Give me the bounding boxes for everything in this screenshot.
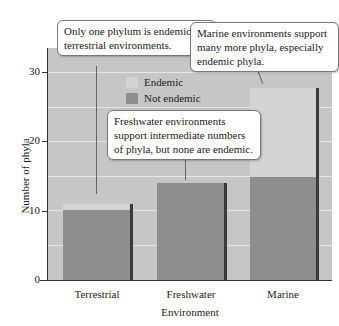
- legend: Endemic Not endemic: [126, 74, 201, 106]
- x-axis-title: Environment: [140, 306, 240, 318]
- bar-freshwater-not-endemic: [157, 183, 224, 280]
- bar-shadow: [130, 204, 133, 280]
- x-tick-label-marine: Marine: [238, 288, 328, 300]
- callout-marine: Marine environments support many more ph…: [190, 22, 339, 72]
- callout-freshwater: Freshwater environments support intermed…: [107, 110, 261, 160]
- legend-item-not-endemic: Not endemic: [126, 90, 201, 106]
- y-axis: [47, 48, 48, 281]
- bar-marine-not-endemic: [250, 177, 316, 280]
- callout-leader-terrestrial: [96, 66, 97, 194]
- bar-freshwater: [157, 183, 224, 280]
- gridline: [48, 72, 332, 73]
- legend-swatch-endemic: [126, 77, 138, 88]
- bar-terrestrial-not-endemic: [63, 210, 130, 280]
- legend-swatch-not-endemic: [126, 93, 138, 104]
- x-tick-label-terrestrial: Terrestrial: [52, 288, 142, 300]
- y-tick: [42, 280, 47, 281]
- bar-terrestrial: [63, 204, 130, 280]
- y-tick: [42, 211, 47, 212]
- legend-item-endemic: Endemic: [126, 74, 201, 90]
- x-tick-label-freshwater: Freshwater: [146, 288, 236, 300]
- legend-label: Not endemic: [144, 92, 201, 104]
- bar-shadow: [224, 183, 227, 280]
- y-tick-label: 30: [12, 65, 40, 77]
- y-axis-title: Number of phyla: [19, 131, 31, 221]
- y-tick: [42, 72, 47, 73]
- y-tick-label: 0: [12, 273, 40, 285]
- y-tick: [42, 141, 47, 142]
- x-axis: [40, 280, 332, 281]
- bar-shadow: [316, 88, 319, 280]
- legend-label: Endemic: [144, 76, 183, 88]
